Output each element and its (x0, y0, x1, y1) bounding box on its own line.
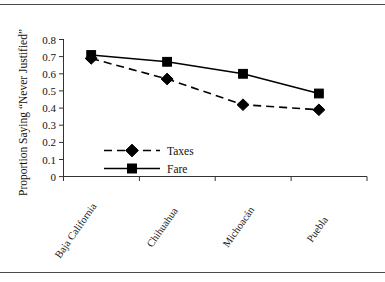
y-tick-label-01: 0.1 (42, 154, 56, 166)
data-point-fare-2 (239, 69, 248, 78)
chart-legend: Taxes Fare (104, 144, 194, 174)
y-tick-label-05: 0.5 (42, 85, 56, 97)
y-axis-title: Proportion Saying “Never Justified” (17, 29, 30, 196)
series-taxes (85, 53, 325, 116)
x-tick-label-michoacan: Michoacán (221, 204, 257, 249)
data-point-taxes-3 (313, 104, 325, 116)
y-tick-label-06: 0.6 (42, 68, 56, 80)
legend-label-taxes: Taxes (167, 145, 194, 157)
legend-swatch-fare-marker (128, 164, 137, 173)
y-axis-ticks (59, 40, 64, 177)
x-tick-label-baja-california: Baja California (53, 201, 99, 260)
chart-figure: Proportion Saying “Never Justified” 0.8 … (0, 0, 385, 282)
x-tick-label-puebla: Puebla (305, 214, 331, 244)
legend-label-fare: Fare (167, 163, 187, 175)
data-point-fare-3 (315, 89, 324, 98)
y-tick-label-02: 0.2 (42, 136, 56, 148)
y-tick-label-00: 0 (51, 171, 57, 183)
series-fare (87, 51, 323, 98)
x-tick-label-chihuahua: Chihuahua (145, 205, 180, 249)
y-tick-label-03: 0.3 (42, 119, 56, 131)
y-tick-label-08: 0.8 (42, 34, 56, 46)
data-point-fare-1 (163, 57, 172, 66)
x-axis-ticks (64, 177, 368, 182)
data-point-taxes-1 (161, 73, 173, 85)
series-fare-line (91, 55, 319, 94)
legend-swatch-taxes-marker (126, 144, 139, 157)
line-chart: Proportion Saying “Never Justified” 0.8 … (0, 0, 385, 282)
y-tick-label-07: 0.7 (42, 51, 56, 63)
data-point-taxes-2 (237, 99, 249, 111)
y-tick-label-04: 0.4 (42, 102, 56, 114)
